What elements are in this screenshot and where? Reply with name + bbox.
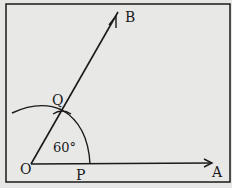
label-O: O bbox=[20, 161, 31, 177]
ray-OA bbox=[31, 163, 212, 164]
diagram-canvas: O P A B Q 60° bbox=[0, 0, 232, 188]
label-B: B bbox=[125, 9, 135, 25]
label-A: A bbox=[211, 164, 223, 180]
label-Q: Q bbox=[52, 92, 63, 108]
label-P: P bbox=[76, 167, 85, 183]
label-angle: 60° bbox=[53, 140, 76, 155]
diagram-border bbox=[6, 4, 230, 182]
